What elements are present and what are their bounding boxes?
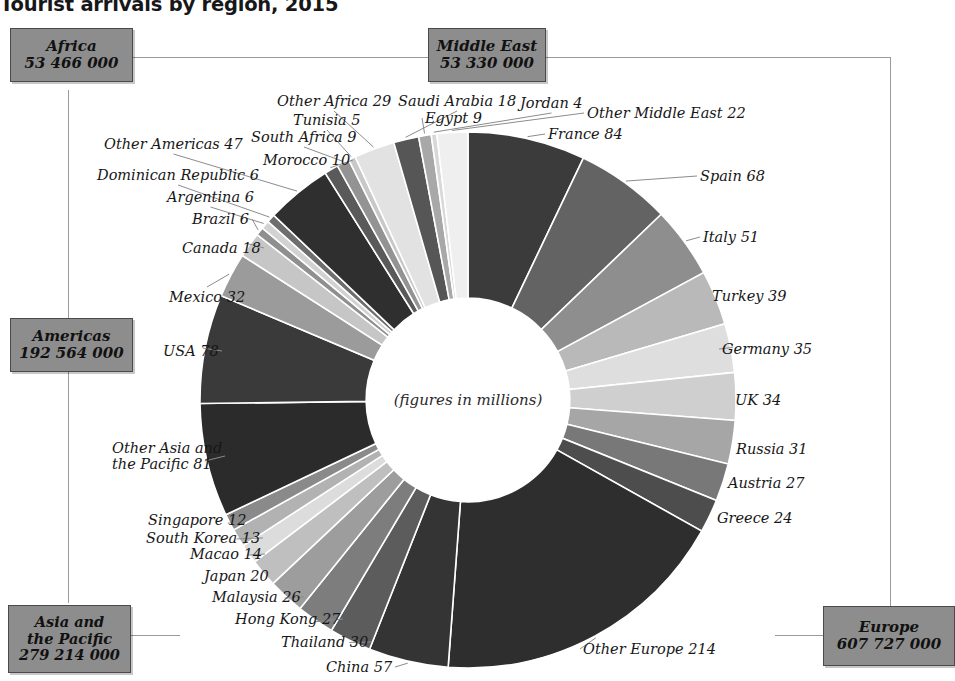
slice-label: South Africa 9: [251, 129, 357, 145]
slice-label: Brazil 6: [192, 211, 249, 227]
connector-right-vertical: [890, 57, 891, 623]
slice-label: Austria 27: [728, 475, 804, 491]
slice-label: Mexico 32: [169, 289, 245, 305]
slice-label: UK 34: [735, 392, 781, 408]
slice-label: Thailand 30: [281, 634, 368, 650]
slice-label: Japan 20: [204, 568, 269, 584]
slice-label: South Korea 13: [146, 530, 260, 546]
region-box-americas-value: 192 564 000: [19, 345, 123, 363]
slice-label: Singapore 12: [148, 512, 246, 528]
region-box-asia-pacific-value: 279 214 000: [19, 647, 120, 664]
slice-label: Macao 14: [190, 546, 262, 562]
pie-slices-group: [200, 132, 736, 668]
page-title: Tourist arrivals by region, 2015: [0, 0, 338, 16]
slice-label: Other Middle East 22: [587, 105, 746, 121]
slice-label: Greece 24: [717, 510, 792, 526]
slice-label: Morocco 10: [263, 152, 350, 168]
slice-label: Spain 68: [700, 168, 765, 184]
slice-label: Jordan 4: [520, 95, 583, 111]
region-box-middle-east-value: 53 330 000: [440, 55, 534, 73]
region-box-africa-name: Africa: [46, 38, 96, 56]
region-box-americas-name: Americas: [33, 328, 111, 346]
slice-label: France 84: [548, 126, 623, 142]
slice-label: Other Americas 47: [104, 136, 243, 152]
region-box-asia-pacific[interactable]: Asia and the Pacific 279 214 000: [8, 605, 131, 673]
region-box-asia-pacific-name: Asia and the Pacific: [27, 614, 112, 647]
slice-label: Canada 18: [182, 240, 261, 256]
region-box-europe-name: Europe: [859, 619, 919, 637]
slice-label: Turkey 39: [712, 288, 787, 304]
connector-africa-to-middleeast: [133, 57, 428, 58]
slice-label: Saudi Arabia 18: [398, 93, 516, 109]
region-box-africa[interactable]: Africa 53 466 000: [10, 28, 133, 82]
slice-label: Russia 31: [736, 441, 807, 457]
slice-label: USA 78: [163, 343, 219, 359]
slice-label: China 57: [326, 659, 392, 675]
slice-label: Dominican Republic 6: [97, 167, 259, 183]
slice-label: Tunisia 5: [293, 112, 361, 128]
connector-asia-right-stub: [131, 635, 180, 636]
slice-label: Other Africa 29: [277, 93, 391, 109]
connector-middleeast-to-right: [546, 57, 890, 58]
region-box-europe-value: 607 727 000: [837, 636, 941, 654]
region-box-middle-east-name: Middle East: [437, 38, 537, 56]
slice-label: Other Asia and the Pacific 81: [112, 440, 222, 472]
slice-label: Argentina 6: [167, 189, 254, 205]
slice-label: Other Europe 214: [583, 641, 716, 657]
region-box-middle-east[interactable]: Middle East 53 330 000: [428, 28, 546, 82]
slice-label: Italy 51: [703, 229, 759, 245]
connector-europe-left-stub: [775, 635, 823, 636]
slice-label: Germany 35: [722, 341, 812, 357]
region-box-americas[interactable]: Americas 192 564 000: [10, 318, 133, 372]
slice-label: Hong Kong 27: [235, 611, 340, 627]
region-box-europe[interactable]: Europe 607 727 000: [823, 606, 955, 666]
slice-label: Malaysia 26: [212, 589, 301, 605]
slice-label: Egypt 9: [425, 110, 482, 126]
region-box-africa-value: 53 466 000: [25, 55, 119, 73]
